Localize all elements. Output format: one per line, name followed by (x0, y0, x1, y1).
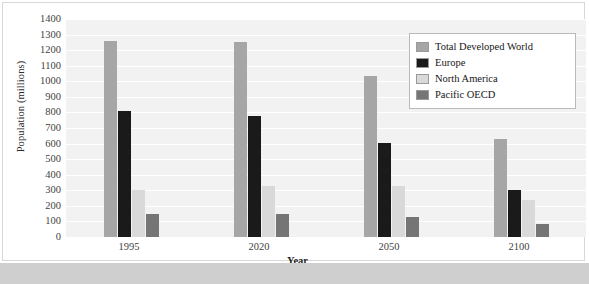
y-axis-tick-label: 700 (21, 122, 61, 133)
legend-swatch-icon (416, 74, 429, 84)
legend-item: Pacific OECD (416, 87, 569, 102)
legend-swatch-icon (416, 58, 429, 68)
y-axis-tick-label: 1000 (21, 75, 61, 86)
y-axis-title: Population (millions) (15, 42, 26, 172)
y-axis-tick-label: 1400 (21, 13, 61, 24)
bottom-band (0, 263, 589, 284)
chart-legend: Total Developed WorldEuropeNorth America… (409, 33, 576, 109)
legend-item-label: North America (435, 73, 498, 84)
legend-item-label: Total Developed World (435, 41, 533, 52)
x-axis-tick-label: 2020 (199, 241, 319, 252)
legend-item: Europe (416, 55, 569, 70)
y-axis-tick-label: 1200 (21, 44, 61, 55)
y-axis-tick-label: 0 (21, 231, 61, 242)
y-axis-tick-label: 100 (21, 215, 61, 226)
x-axis-tick-label: 2050 (329, 241, 449, 252)
y-axis-tick-label: 200 (21, 200, 61, 211)
x-axis-tick-label: 1995 (69, 241, 189, 252)
chart-figure: 1400130012001100100090080070060050040030… (0, 0, 589, 284)
legend-item-label: Europe (435, 57, 465, 68)
y-axis-tick-label: 900 (21, 91, 61, 102)
chart-card: 1400130012001100100090080070060050040030… (2, 2, 585, 261)
y-axis-tick-label: 1300 (21, 29, 61, 40)
y-axis-tick-label: 500 (21, 153, 61, 164)
legend-swatch-icon (416, 42, 429, 52)
y-axis-tick-label: 800 (21, 106, 61, 117)
y-axis-tick-label: 300 (21, 184, 61, 195)
legend-item: Total Developed World (416, 39, 569, 54)
x-axis-tick-label: 2100 (459, 241, 579, 252)
y-axis-tick-label: 600 (21, 138, 61, 149)
y-axis-tick-label: 1100 (21, 60, 61, 71)
legend-swatch-icon (416, 90, 429, 100)
legend-item-label: Pacific OECD (435, 89, 495, 100)
y-axis-tick-label: 400 (21, 169, 61, 180)
legend-item: North America (416, 71, 569, 86)
